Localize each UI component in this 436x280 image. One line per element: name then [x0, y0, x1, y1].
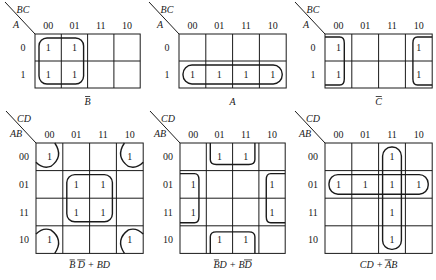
karnaugh-maps-figure: BCA00011110011111BBCA00011110011111ABCA0… [0, 0, 436, 280]
expression-part: B [391, 259, 397, 270]
row-variable-label: A [12, 19, 20, 30]
cell-one: 1 [191, 207, 196, 218]
column-variable-label: CD [161, 113, 176, 124]
kmap-grid [325, 143, 432, 253]
kmap-caption-expression: B [85, 96, 91, 107]
cell-one: 1 [72, 42, 77, 53]
column-label: 10 [125, 129, 135, 140]
row-label: 10 [308, 234, 318, 245]
cell-one: 1 [217, 234, 222, 245]
cell-one: 1 [416, 42, 421, 53]
cell-one: 1 [47, 151, 52, 162]
column-label: 00 [43, 20, 53, 31]
row-label: 00 [308, 151, 318, 162]
column-label: 11 [241, 129, 251, 140]
column-label: 10 [122, 20, 132, 31]
column-variable-label: BC [161, 4, 174, 15]
column-variable-label: BC [307, 4, 320, 15]
cell-one: 1 [101, 179, 106, 190]
column-label: 11 [387, 129, 397, 140]
kmap-caption-expression: A [229, 96, 237, 107]
cell-one: 1 [74, 207, 79, 218]
column-label: 01 [214, 129, 224, 140]
row-label: 01 [163, 179, 173, 190]
cell-one: 1 [336, 69, 341, 80]
cell-one: 1 [244, 69, 249, 80]
column-label: 11 [387, 20, 397, 31]
column-label: 01 [69, 20, 79, 31]
kmap-map-b-bar: BCA00011110011111B [5, 2, 140, 107]
kmap-map-bd-bar-plus-bd: CDAB000111100001111011111111B D + BD [6, 111, 143, 270]
cell-one: 1 [101, 207, 106, 218]
column-label: 00 [188, 129, 198, 140]
kmap-svg-canvas: BCA00011110011111BBCA00011110011111ABCA0… [0, 0, 436, 280]
cell-one: 1 [243, 234, 248, 245]
cell-one: 1 [190, 69, 195, 80]
row-variable-label: A [156, 19, 164, 30]
cell-one: 1 [47, 234, 52, 245]
cell-one: 1 [336, 42, 341, 53]
row-label: 11 [19, 207, 29, 218]
row-variable-label: AB [9, 128, 22, 139]
row-label: 00 [163, 151, 173, 162]
kmap-caption-expression: B D + BD [69, 259, 111, 270]
row-label: 0 [21, 42, 26, 53]
row-variable-label: AB [153, 128, 166, 139]
cell-one: 1 [416, 69, 421, 80]
row-label: 1 [165, 69, 170, 80]
row-label: 00 [19, 151, 29, 162]
complemented-variable: B [85, 96, 91, 107]
cell-one: 1 [270, 179, 275, 190]
row-label: 0 [311, 42, 316, 53]
row-label: 0 [165, 42, 170, 53]
row-variable-label: AB [298, 128, 311, 139]
row-label: 1 [21, 69, 26, 80]
kmap-map-cd-plus-a-bar-b: CDAB00011110000111101111111CD + AB [295, 111, 432, 270]
expression-part: + BD [85, 259, 111, 270]
column-label: 10 [268, 20, 278, 31]
column-label: 10 [267, 129, 277, 140]
column-variable-label: CD [17, 113, 32, 124]
column-label: 10 [414, 129, 424, 140]
kmap-grid [180, 143, 285, 253]
kmap-map-a: BCA00011110011111A [149, 2, 286, 107]
cell-one: 1 [72, 69, 77, 80]
complemented-variable: C [375, 96, 382, 107]
cell-one: 1 [270, 207, 275, 218]
expression-part: A [229, 96, 237, 107]
cell-one: 1 [390, 179, 395, 190]
cell-one: 1 [390, 207, 395, 218]
column-label: 01 [71, 129, 81, 140]
row-label: 11 [163, 207, 173, 218]
row-variable-label: A [302, 19, 310, 30]
kmap-map-c-bar: BCA00011110011111C [295, 2, 432, 107]
expression-part: CD + [360, 259, 385, 270]
column-label: 11 [241, 20, 251, 31]
expression-part: D + B [218, 259, 244, 270]
cell-one: 1 [416, 179, 421, 190]
kmap-caption-expression: CD + AB [360, 259, 398, 270]
column-label: 10 [414, 20, 424, 31]
column-label: 11 [96, 20, 106, 31]
kmap-grid [35, 34, 140, 88]
cell-one: 1 [363, 179, 368, 190]
row-label: 10 [163, 234, 173, 245]
column-variable-label: CD [306, 113, 321, 124]
row-label: 01 [308, 179, 318, 190]
row-label: 1 [311, 69, 316, 80]
kmap-caption-expression: BD + BD [213, 259, 252, 270]
column-label: 00 [333, 129, 343, 140]
cell-one: 1 [243, 151, 248, 162]
cell-one: 1 [191, 179, 196, 190]
complemented-variable: D [244, 259, 253, 270]
cell-one: 1 [46, 69, 51, 80]
column-label: 01 [214, 20, 224, 31]
column-label: 00 [333, 20, 343, 31]
cell-one: 1 [390, 234, 395, 245]
column-label: 01 [360, 129, 370, 140]
cell-one: 1 [74, 179, 79, 190]
cell-one: 1 [217, 151, 222, 162]
column-label: 01 [360, 20, 370, 31]
cell-one: 1 [390, 151, 395, 162]
cell-one: 1 [127, 151, 132, 162]
